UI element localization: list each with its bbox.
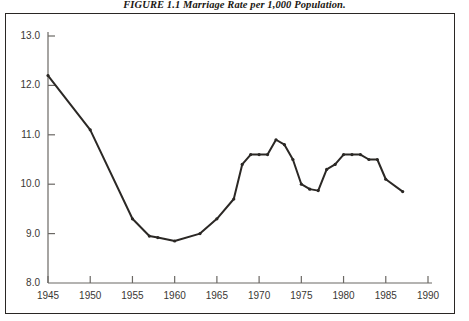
y-axis-tick-label: 11.0 (10, 129, 40, 141)
x-axis-tick-label: 1985 (366, 290, 406, 302)
y-axis-tick-label: 8.0 (10, 277, 40, 289)
x-axis-tick-label: 1945 (28, 290, 68, 302)
x-axis-tick-label: 1975 (281, 290, 321, 302)
x-axis-tick-label: 1950 (70, 290, 110, 302)
y-axis-tick-label: 12.0 (10, 79, 40, 91)
x-axis-tick-label: 1990 (408, 290, 448, 302)
x-axis-tick-label: 1980 (324, 290, 364, 302)
x-axis-tick-label: 1960 (155, 290, 195, 302)
figure-root: FIGURE 1.1 Marriage Rate per 1,000 Popul… (0, 0, 469, 321)
y-axis-tick-label: 9.0 (10, 228, 40, 240)
x-axis-tick-label: 1965 (197, 290, 237, 302)
y-axis-tick-label: 13.0 (10, 30, 40, 42)
x-axis-tick-label: 1955 (112, 290, 152, 302)
figure-title: FIGURE 1.1 Marriage Rate per 1,000 Popul… (0, 0, 469, 11)
figure-frame (5, 13, 455, 314)
y-axis-tick-label: 10.0 (10, 178, 40, 190)
x-axis-tick-label: 1970 (239, 290, 279, 302)
